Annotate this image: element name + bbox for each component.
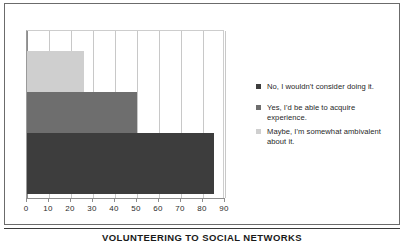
x-axis-tick xyxy=(70,198,71,202)
x-axis-tick xyxy=(180,198,181,202)
x-axis-tick-label: 60 xyxy=(148,204,168,214)
plot-area xyxy=(26,30,224,198)
x-axis-tick-label: 30 xyxy=(82,204,102,214)
bar-series xyxy=(27,31,223,198)
x-axis-tick xyxy=(48,198,49,202)
chart-legend: No, I wouldn't consider doing it. Yes, I… xyxy=(256,82,396,146)
x-axis-tick xyxy=(92,198,93,202)
legend-item-maybe[interactable]: Maybe, I'm somewhat ambivalent about it. xyxy=(256,127,396,146)
x-axis-tick xyxy=(114,198,115,202)
legend-swatch-light-icon xyxy=(256,129,261,134)
legend-swatch-medium-icon xyxy=(256,105,261,110)
x-axis-tick-label: 70 xyxy=(170,204,190,214)
legend-item-label: No, I wouldn't consider doing it. xyxy=(267,82,374,91)
bar xyxy=(27,92,137,133)
legend-item-yes[interactable]: Yes, I'd be able to acquire experience. xyxy=(256,103,396,122)
x-axis-tick xyxy=(224,198,225,202)
x-axis-tick xyxy=(202,198,203,202)
gridline xyxy=(225,31,226,198)
x-axis-tick xyxy=(158,198,159,202)
legend-item-label: Yes, I'd be able to acquire experience. xyxy=(267,103,355,121)
legend-swatch-dark-icon xyxy=(256,84,261,89)
x-axis-tick-label: 40 xyxy=(104,204,124,214)
legend-item-no[interactable]: No, I wouldn't consider doing it. xyxy=(256,82,396,91)
x-axis-tick-label: 10 xyxy=(38,204,58,214)
legend-item-label: Maybe, I'm somewhat ambivalent about it. xyxy=(267,127,381,145)
x-axis-tick-label: 80 xyxy=(192,204,212,214)
x-axis-tick-label: 20 xyxy=(60,204,80,214)
x-axis-tick-label: 50 xyxy=(126,204,146,214)
chart-figure: 0102030405060708090 No, I wouldn't consi… xyxy=(0,0,405,241)
figure-caption: VOLUNTEERING TO SOCIAL NETWORKS xyxy=(4,232,400,241)
x-axis-tick-label: 0 xyxy=(16,204,36,214)
x-axis-tick xyxy=(136,198,137,202)
x-axis-tick-label: 90 xyxy=(214,204,234,214)
x-axis-line xyxy=(26,198,224,199)
bar xyxy=(27,133,214,194)
caption-divider xyxy=(4,228,400,229)
bar xyxy=(27,51,84,92)
x-axis-tick xyxy=(26,198,27,202)
